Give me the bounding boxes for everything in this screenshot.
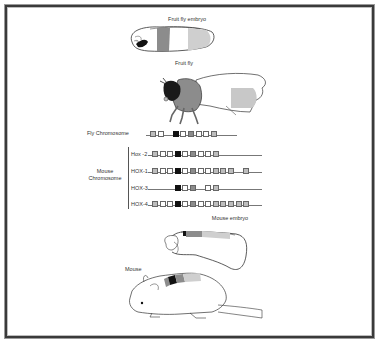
hox-gene-box — [190, 168, 196, 174]
label-hox-1: HOX-1 — [131, 169, 148, 175]
fruit-fly-embryo-illustration — [131, 27, 214, 52]
hox-gene-box — [198, 151, 204, 157]
hox-gene-box — [203, 131, 209, 137]
hox-gene-box — [167, 168, 173, 174]
label-mouse-embryo: Mouse embryo — [212, 216, 248, 222]
hox-gene-box — [167, 151, 173, 157]
label-hox-2: Hox -2 — [131, 152, 147, 158]
hox-gene-box — [213, 185, 219, 191]
hox-gene-box — [220, 168, 226, 174]
fruit-fly-illustration — [160, 73, 265, 124]
hox-gene-box — [211, 131, 217, 137]
hox-gene-box — [182, 201, 188, 207]
hox-gene-box — [228, 201, 234, 207]
label-mouse-chromosome-line1: Mouse — [97, 169, 114, 175]
hox-gene-box — [205, 168, 211, 174]
hox-gene-box — [182, 151, 188, 157]
hox-gene-box — [167, 201, 173, 207]
hox-gene-box — [158, 131, 164, 137]
mouse-illustration — [129, 273, 262, 318]
hox-gene-box — [190, 201, 196, 207]
hox-gene-box — [152, 168, 158, 174]
hox-gene-box — [152, 201, 158, 207]
hox-gene-box — [152, 151, 158, 157]
label-hox-4: HOX-4 — [131, 202, 148, 208]
illustrations — [0, 0, 378, 340]
hox-gene-box — [175, 201, 181, 207]
hox-gene-box — [196, 131, 202, 137]
hox-gene-box — [180, 131, 186, 137]
hox-gene-box — [205, 185, 211, 191]
hox-gene-box — [190, 151, 196, 157]
hox-gene-box — [160, 168, 166, 174]
hox-gene-box — [150, 131, 156, 137]
hox-gene-box — [198, 201, 204, 207]
hox-gene-box — [213, 201, 219, 207]
hox-gene-box — [198, 168, 204, 174]
hox-gene-box — [160, 151, 166, 157]
hox-gene-box — [173, 131, 179, 137]
hox-gene-box — [175, 185, 181, 191]
label-fly-chromosome: Fly Chromosome — [87, 131, 129, 137]
hox-gene-box — [205, 201, 211, 207]
hox-gene-box — [188, 131, 194, 137]
mouse-embryo-illustration — [165, 231, 247, 270]
hox-gene-box — [205, 151, 211, 157]
hox-gene-box — [228, 168, 234, 174]
hox-gene-box — [213, 168, 219, 174]
hox-gene-box — [175, 168, 181, 174]
label-fruit-fly: Fruit fly — [175, 61, 193, 67]
label-mouse: Mouse — [125, 267, 142, 273]
hox-gene-box — [213, 151, 219, 157]
label-mouse-chromosome-line2: Chromosome — [88, 176, 121, 182]
hox-gene-box — [243, 201, 249, 207]
hox-gene-box — [175, 151, 181, 157]
hox-gene-box — [160, 201, 166, 207]
hox-gene-box — [236, 201, 242, 207]
hox-gene-box — [190, 185, 196, 191]
hox-gene-box — [243, 168, 249, 174]
hox-gene-box — [182, 168, 188, 174]
label-hox-3: HOX-3 — [131, 186, 148, 192]
mouse-chromosome-bracket — [128, 147, 129, 209]
label-fruit-fly-embryo: Fruit fly embryo — [168, 17, 206, 23]
hox-gene-box — [182, 185, 188, 191]
hox-gene-box — [220, 201, 226, 207]
